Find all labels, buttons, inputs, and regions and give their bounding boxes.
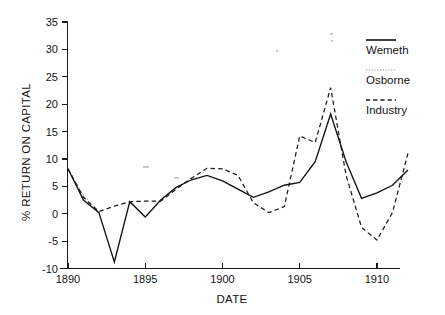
legend-label-industry: Industry (366, 104, 407, 116)
chart-figure: 35302520151050-5-10 18901895190019051910… (0, 0, 445, 315)
x-axis-ticks: 18901895190019051910 (56, 263, 389, 286)
y-axis-title: % RETURN ON CAPITAL (20, 83, 32, 221)
y-tick-label: 20 (46, 98, 58, 110)
x-tick-label: 1900 (210, 273, 234, 285)
series-line-osborne (68, 169, 99, 212)
y-tick-label: 35 (46, 16, 58, 28)
x-tick-label: 1905 (288, 273, 312, 285)
line-chart: 35302520151050-5-10 18901895190019051910… (0, 0, 445, 315)
series-line-wemeth (68, 114, 408, 262)
y-tick-label: 15 (46, 126, 58, 138)
y-axis-ticks: 35302520151050-5-10 (42, 16, 67, 275)
scan-specks (143, 33, 333, 179)
legend-label-osborne: Osborne (366, 74, 410, 86)
y-tick-label: 30 (46, 43, 58, 55)
x-tick-label: 1890 (56, 273, 80, 285)
x-tick-label: 1910 (365, 273, 389, 285)
x-axis-title: DATE (216, 293, 247, 305)
y-tick-label: -5 (48, 235, 58, 247)
y-tick-label: 10 (46, 153, 58, 165)
chart-legend: WemethOsborneIndustry (366, 40, 410, 116)
y-tick-label: 25 (46, 71, 58, 83)
axis-group (60, 22, 400, 269)
y-tick-label: 0 (52, 208, 58, 220)
data-series-group (68, 88, 408, 262)
series-line-industry (68, 88, 408, 240)
legend-label-wemeth: Wemeth (366, 44, 409, 56)
x-tick-label: 1895 (133, 273, 157, 285)
y-tick-label: 5 (52, 180, 58, 192)
